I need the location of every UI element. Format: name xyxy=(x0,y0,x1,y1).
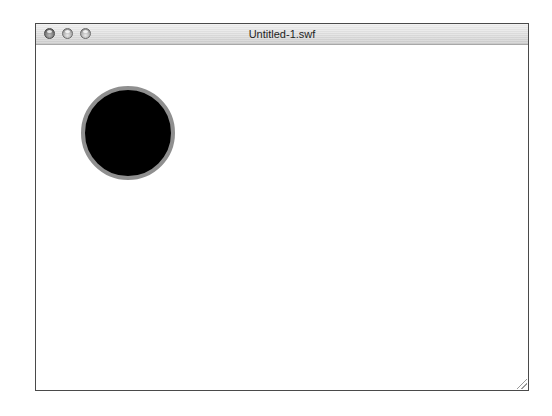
resize-grip-icon[interactable] xyxy=(517,379,527,389)
title-bar[interactable]: Untitled-1.swf xyxy=(36,24,528,45)
black-circle-shape xyxy=(81,86,175,180)
swf-player-window: Untitled-1.swf xyxy=(35,23,529,391)
window-title: Untitled-1.swf xyxy=(36,24,528,44)
flash-stage[interactable] xyxy=(36,45,528,390)
